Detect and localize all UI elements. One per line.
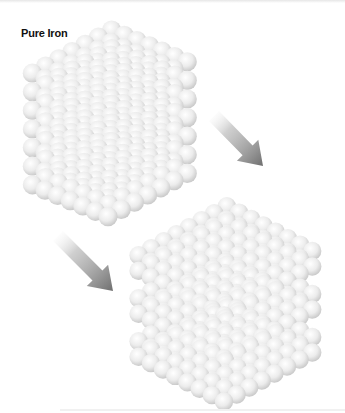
arrow-down-right-2-icon	[53, 231, 113, 291]
arrow-down-right-1-icon	[209, 111, 263, 166]
lattice-structures	[23, 20, 322, 410]
bottom-border	[60, 409, 345, 411]
atom-sphere	[215, 392, 233, 410]
solid-cube	[23, 20, 197, 226]
atom-sphere	[98, 207, 117, 226]
iron-lattice-diagram	[0, 0, 345, 413]
separated-slabs	[129, 197, 321, 411]
